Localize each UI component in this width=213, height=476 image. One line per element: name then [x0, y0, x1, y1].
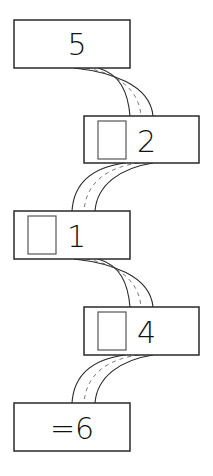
start-value: 5: [67, 27, 86, 62]
result-box: =6: [14, 403, 130, 451]
connector-1: [74, 68, 153, 116]
step-box-1: 2: [84, 116, 199, 163]
answer-slot[interactable]: [98, 121, 126, 159]
connector-3: [74, 259, 153, 307]
step-value: 2: [137, 124, 156, 159]
connector-2: [72, 163, 153, 211]
step-box-2: 1: [14, 211, 130, 259]
answer-slot[interactable]: [98, 312, 126, 350]
start-box: 5: [14, 20, 130, 68]
step-value: 4: [137, 315, 156, 350]
step-value: 1: [67, 219, 86, 254]
answer-slot[interactable]: [28, 216, 56, 254]
connector-4: [72, 355, 153, 403]
number-chain-diagram: 5 2 1 4 =6: [0, 0, 213, 476]
step-box-3: 4: [84, 307, 199, 355]
result-value: =6: [50, 411, 94, 446]
